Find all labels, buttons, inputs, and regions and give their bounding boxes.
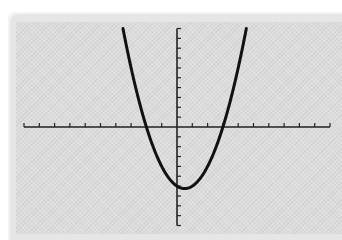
parabola-curve: [123, 29, 246, 189]
parabola-graph: [0, 0, 342, 240]
